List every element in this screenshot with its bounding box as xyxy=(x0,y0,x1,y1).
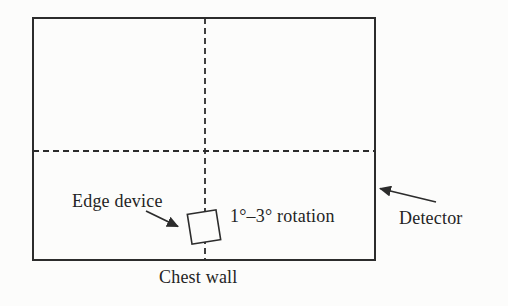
detector-label: Detector xyxy=(399,208,463,229)
edge-device-label: Edge device xyxy=(72,191,163,212)
edge-device-marker xyxy=(187,210,220,244)
chest-wall-label: Chest wall xyxy=(159,267,238,288)
figure: Edge device 1°–3° rotation Detector Ches… xyxy=(0,0,508,306)
rotation-label: 1°–3° rotation xyxy=(230,206,335,227)
detector-arrow xyxy=(380,189,436,203)
diagram xyxy=(0,0,508,306)
